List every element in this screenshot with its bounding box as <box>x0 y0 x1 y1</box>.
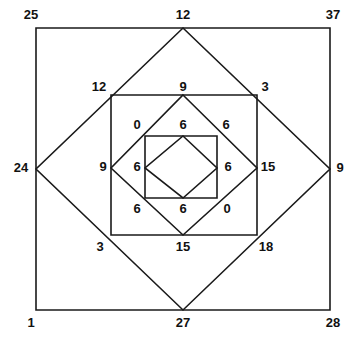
label-outer-bottom-right: 28 <box>326 315 340 330</box>
label-outer-top-right: 37 <box>326 7 340 22</box>
label-inner-top-right: 6 <box>222 117 229 132</box>
label-middle-bottom-left: 3 <box>96 239 103 254</box>
label-inner-top-left: 0 <box>133 117 140 132</box>
label-outer-bottom-mid: 27 <box>176 315 190 330</box>
label-middle-left-mid: 9 <box>99 159 106 174</box>
label-outer-bottom-left: 1 <box>27 315 34 330</box>
label-middle-right-mid: 15 <box>261 159 275 174</box>
label-inner-bottom-right: 0 <box>223 201 230 216</box>
label-inner-bottom-left: 6 <box>133 201 140 216</box>
label-middle-bottom-right: 18 <box>259 239 273 254</box>
label-middle-top-mid: 9 <box>179 79 186 94</box>
label-inner-top-mid: 6 <box>179 117 186 132</box>
outer-diamond <box>36 28 330 310</box>
nested-squares-diamonds-figure: 25 12 37 24 9 1 27 28 12 9 3 9 15 3 15 1… <box>0 0 355 342</box>
label-outer-top-mid: 12 <box>176 7 190 22</box>
figure-container: 25 12 37 24 9 1 27 28 12 9 3 9 15 3 15 1… <box>0 0 355 342</box>
label-outer-left-mid: 24 <box>14 160 29 175</box>
label-layer: 25 12 37 24 9 1 27 28 12 9 3 9 15 3 15 1… <box>14 7 344 330</box>
inner-square <box>145 136 217 198</box>
shape-layer <box>36 28 330 310</box>
label-middle-bottom-mid: 15 <box>176 239 190 254</box>
label-outer-top-left: 25 <box>24 7 38 22</box>
label-inner-bottom-mid: 6 <box>179 201 186 216</box>
label-middle-top-right: 3 <box>261 79 268 94</box>
label-middle-top-left: 12 <box>92 79 106 94</box>
label-outer-right-mid: 9 <box>336 160 343 175</box>
inner-diamond <box>145 136 217 198</box>
label-inner-left-mid: 6 <box>133 159 140 174</box>
outer-square <box>36 28 330 310</box>
label-inner-right-mid: 6 <box>224 159 231 174</box>
